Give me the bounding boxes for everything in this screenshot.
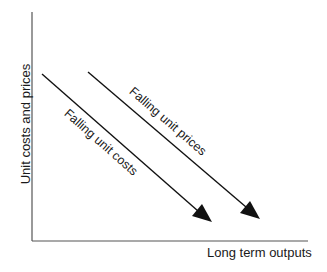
y-axis-label: Unit costs and prices — [19, 64, 32, 185]
costs-line — [42, 74, 212, 222]
costs-arrowhead-icon — [192, 204, 212, 222]
diagram-canvas — [0, 0, 327, 272]
economies-of-scale-diagram: Long term outputs Unit costs and prices … — [0, 0, 327, 272]
x-axis-label: Long term outputs — [207, 246, 312, 259]
